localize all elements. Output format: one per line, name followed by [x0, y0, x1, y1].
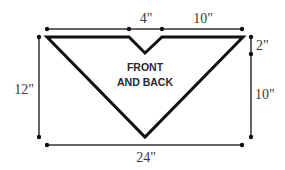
- pattern-diagram: 4" 10" 12" 2" 10" 24" FRONT AND BACK: [0, 0, 285, 170]
- left-dimension-line: [37, 35, 41, 139]
- bottom-dimension-line: [45, 143, 244, 147]
- dimension-label-right-bottom: 10": [255, 87, 275, 102]
- top-dimension-line: [45, 27, 244, 31]
- dimension-label-bottom: 24": [136, 150, 156, 165]
- dimension-label-right-top: 2": [256, 38, 269, 53]
- shape-label-line2: AND BACK: [117, 76, 173, 88]
- dimension-label-top-right: 10": [193, 11, 213, 26]
- shape-label-line1: FRONT: [127, 61, 164, 73]
- dimension-label-left: 12": [14, 82, 34, 97]
- right-dimension-line: [249, 35, 253, 139]
- dimension-label-top-center: 4": [140, 11, 153, 26]
